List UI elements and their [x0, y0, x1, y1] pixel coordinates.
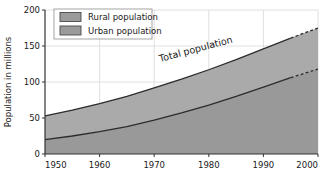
x-axis-ticks: 195019601970198019902000: [45, 154, 318, 170]
x-tick-label: 1960: [89, 160, 111, 170]
y-tick-label: 0: [35, 149, 40, 159]
legend-label-urban: Urban population: [88, 26, 162, 36]
y-tick-label: 200: [24, 5, 40, 15]
x-tick-label: 1970: [143, 160, 165, 170]
y-tick-label: 50: [29, 113, 40, 123]
x-tick-label: 1950: [45, 160, 67, 170]
x-tick-label: 1980: [198, 160, 220, 170]
x-tick-label: 2000: [296, 160, 318, 170]
y-tick-label: 150: [24, 41, 40, 51]
x-tick-label: 1990: [253, 160, 275, 170]
legend-label-rural: Rural population: [88, 12, 158, 22]
legend-swatch-urban: [60, 26, 81, 35]
y-axis-title: Population in millions: [3, 36, 13, 127]
population-area-chart: 050100150200 195019601970198019902000 Po…: [0, 0, 332, 178]
chart-canvas: 050100150200 195019601970198019902000 Po…: [0, 0, 332, 178]
y-axis-ticks: 050100150200: [24, 5, 45, 159]
chart-legend: Rural population Urban population: [54, 9, 162, 39]
y-tick-label: 100: [24, 77, 40, 87]
legend-swatch-rural: [60, 13, 81, 22]
